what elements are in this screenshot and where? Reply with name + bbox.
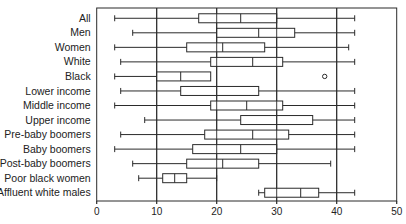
box-row-men	[133, 28, 355, 37]
box-plot-chart: AllMenWomenWhiteBlackLower incomeMiddle …	[0, 0, 406, 224]
x-tick-label: 30	[271, 206, 283, 217]
box-row-women	[115, 43, 349, 52]
x-tick-label: 0	[94, 206, 100, 217]
iqr-box	[181, 86, 259, 95]
box-row-all	[115, 14, 355, 23]
x-tick-label: 20	[211, 206, 223, 217]
category-label: Women	[55, 41, 91, 53]
box-row-black	[115, 72, 327, 81]
iqr-box	[193, 145, 277, 154]
iqr-box	[199, 14, 277, 23]
iqr-box	[187, 43, 265, 52]
iqr-box	[205, 130, 289, 139]
category-label: Lower income	[25, 85, 91, 97]
category-label: Post-baby boomers	[0, 157, 91, 169]
box-row-affluent-white-males	[259, 188, 355, 197]
category-label: Poor black women	[4, 172, 91, 184]
category-labels: AllMenWomenWhiteBlackLower incomeMiddle …	[0, 12, 91, 198]
x-tick-label: 50	[391, 206, 403, 217]
box-series	[115, 8, 355, 201]
iqr-box	[265, 188, 319, 197]
category-label: Men	[70, 26, 91, 38]
x-tick-label: 10	[151, 206, 163, 217]
iqr-box	[157, 72, 211, 81]
category-label: Middle income	[23, 99, 91, 111]
category-label: Black	[65, 70, 91, 82]
category-label: Baby boomers	[23, 143, 91, 155]
box-row-poor-black-women	[139, 174, 217, 183]
iqr-box	[217, 28, 295, 37]
box-row-baby-boomers	[115, 145, 355, 154]
box-row-upper-income	[145, 116, 355, 125]
category-label: White	[64, 55, 91, 67]
box-row-pre-baby-boomers	[121, 130, 355, 139]
box-row-lower-income	[121, 86, 355, 95]
box-row-post-baby-boomers	[133, 159, 331, 168]
category-label: Upper income	[25, 114, 91, 126]
category-label: All	[79, 12, 91, 24]
box-row-white	[121, 57, 355, 66]
outlier-point	[323, 74, 327, 78]
box-row-middle-income	[115, 101, 355, 110]
x-tick-label: 40	[331, 206, 343, 217]
category-label: Pre-baby boomers	[4, 128, 90, 140]
iqr-box	[211, 57, 283, 66]
x-axis-ticks: 01020304050	[94, 201, 403, 217]
category-label: Affluent white males	[0, 186, 91, 198]
